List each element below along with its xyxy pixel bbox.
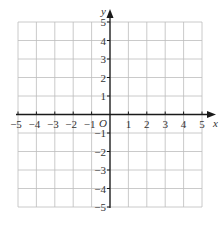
x-tick-label: 1 xyxy=(126,118,132,130)
y-tick-label: 3 xyxy=(101,53,107,65)
y-tick-label: −4 xyxy=(94,183,106,195)
y-axis-arrow-icon xyxy=(107,9,114,18)
y-tick-label: −1 xyxy=(94,127,106,139)
x-tick-label: −4 xyxy=(29,118,41,130)
y-tick-label: 1 xyxy=(101,90,107,102)
y-tick-label: 2 xyxy=(101,72,107,84)
x-tick-label: −5 xyxy=(10,118,22,130)
x-axis-label: x xyxy=(212,117,218,129)
axes xyxy=(16,9,216,208)
coordinate-plane: −5−4−3−2−11234554321−1−2−3−4−5Oxy xyxy=(0,0,223,228)
y-tick-label: −5 xyxy=(94,201,106,213)
x-tick-label: 4 xyxy=(181,118,187,130)
x-tick-label: −2 xyxy=(65,118,77,130)
origin-label: O xyxy=(99,117,107,129)
y-tick-label: −3 xyxy=(94,164,106,176)
y-axis-label: y xyxy=(100,5,106,17)
y-tick-label: 5 xyxy=(101,16,107,28)
y-tick-label: −2 xyxy=(94,146,106,158)
x-tick-label: 5 xyxy=(199,118,205,130)
x-tick-label: 2 xyxy=(144,118,150,130)
x-tick-label: 3 xyxy=(162,118,168,130)
x-tick-label: −3 xyxy=(47,118,59,130)
tick-labels: −5−4−3−2−11234554321−1−2−3−4−5Oxy xyxy=(10,5,218,213)
y-tick-label: 4 xyxy=(101,35,107,47)
